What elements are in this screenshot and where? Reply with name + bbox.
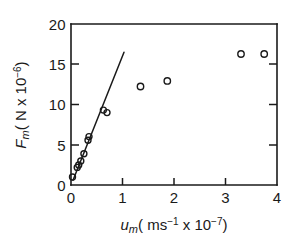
y-tick-label: 5 (57, 137, 66, 154)
x-axis-unit-close: ) (223, 216, 228, 233)
scatter-plot: 20 15 10 5 0 0 1 2 3 4 Fm( N x 10−6) um(… (0, 0, 291, 243)
x-tick-label: 3 (221, 189, 230, 206)
y-tick-labels: 20 15 10 5 0 (49, 16, 66, 194)
linear-fit-line (73, 52, 124, 180)
y-axis-unit-open: ( N x 10 (12, 78, 29, 131)
y-axis-unit-close: ) (12, 61, 29, 66)
data-point (238, 51, 244, 57)
y-axis-ticks (71, 64, 79, 145)
y-tick-label: 10 (49, 96, 66, 113)
svg-text:Fm( N x 10−6): Fm( N x 10−6) (12, 61, 31, 148)
data-point (137, 83, 143, 89)
svg-text:um( ms−1 x 10−7): um( ms−1 x 10−7) (120, 216, 227, 235)
data-point (164, 78, 170, 84)
y-tick-label: 0 (57, 177, 66, 194)
y-axis-exponent: −6 (12, 66, 23, 78)
right-axis-ticks (269, 64, 277, 145)
x-axis-unit-middle: x 10 (179, 216, 212, 233)
x-axis-unit-open: ( ms (138, 216, 167, 233)
y-axis-subscript: m (19, 130, 31, 139)
plot-frame (71, 24, 277, 185)
figure-container: 20 15 10 5 0 0 1 2 3 4 Fm( N x 10−6) um(… (0, 0, 291, 243)
x-tick-label: 0 (67, 189, 76, 206)
x-tick-label: 2 (170, 189, 179, 206)
x-axis-exponent-1: −1 (167, 216, 179, 227)
x-axis-title: um( ms−1 x 10−7) (120, 216, 227, 235)
x-tick-label: 4 (273, 189, 282, 206)
x-tick-labels: 0 1 2 3 4 (67, 189, 282, 206)
data-point (261, 51, 267, 57)
x-axis-subscript: m (129, 223, 138, 235)
x-axis-ticks (123, 178, 226, 185)
y-tick-label: 15 (49, 56, 66, 73)
x-axis-exponent-2: −7 (211, 216, 223, 227)
x-tick-label: 1 (118, 189, 127, 206)
y-tick-label: 20 (49, 16, 66, 33)
y-axis-title: Fm( N x 10−6) (12, 61, 31, 148)
